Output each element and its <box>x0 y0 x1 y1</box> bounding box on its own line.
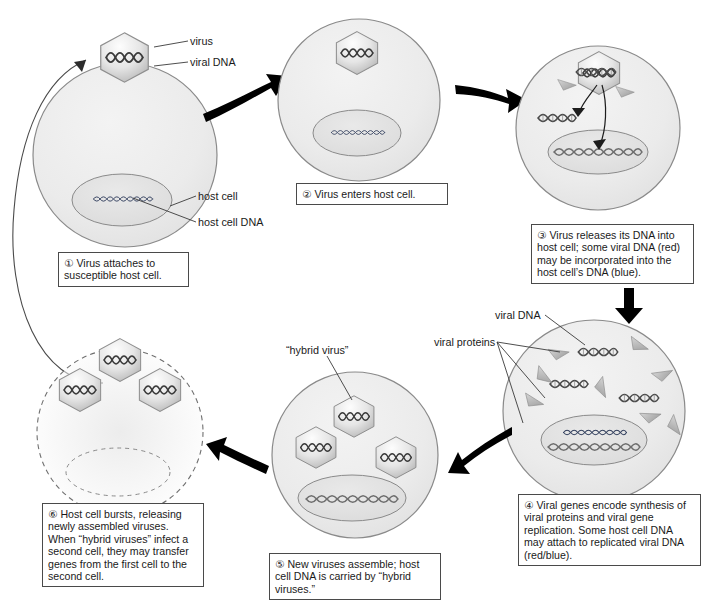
step-text-1: Virus attaches to susceptible host cell. <box>64 257 162 281</box>
arrow-step5-to-step6 <box>206 437 269 474</box>
caption-step-1: ① Virus attaches to susceptible host cel… <box>58 252 189 287</box>
nucleus-ellipse-icon <box>541 415 647 465</box>
arrow-step2-to-step3 <box>455 85 527 113</box>
caption-step-5: ⑤ New viruses assemble; host cell DNA is… <box>269 553 441 600</box>
step-number-1: ① <box>64 257 74 269</box>
label-host-cell-dna: host cell DNA <box>198 216 263 228</box>
label-hybrid-virus: “hybrid virus” <box>286 344 348 356</box>
caption-step-6: ⑥ Host cell bursts, releasing newly asse… <box>42 503 204 587</box>
arrow-step3-to-step4 <box>615 288 643 324</box>
step-3-cell-group <box>516 46 680 210</box>
step-text-4: Viral genes encode synthesis of viral pr… <box>524 499 686 561</box>
caption-step-3: ③ Virus releases its DNA into host cell;… <box>531 224 694 284</box>
label-host-cell: host cell <box>198 190 238 202</box>
step-text-6: Host cell bursts, releasing newly assemb… <box>48 508 189 582</box>
arrow-step4-to-step5 <box>448 427 512 474</box>
label-viral-proteins: viral proteins <box>434 336 495 348</box>
arrow-step1-to-step2 <box>203 74 288 122</box>
step-number-2: ② <box>302 188 312 200</box>
nucleus-ellipse-icon <box>72 174 172 226</box>
label-viral-dna: viral DNA <box>190 56 236 68</box>
step-6-cell-group <box>37 339 203 515</box>
label-viral-dna-2: viral DNA <box>495 309 541 321</box>
label-virus: virus <box>190 35 213 47</box>
step-text-3: Virus releases its DNA into host cell; s… <box>537 229 680 278</box>
step-5-cell-group <box>272 372 438 538</box>
step-2-cell-group <box>278 19 440 181</box>
step-number-3: ③ <box>537 229 547 241</box>
step-number-4: ④ <box>524 499 534 511</box>
step-text-2: Virus enters host cell. <box>314 188 415 200</box>
step-number-5: ⑤ <box>275 558 285 570</box>
nucleus-ellipse-icon <box>313 110 401 156</box>
step-text-5: New viruses assemble; host cell DNA is c… <box>275 558 419 595</box>
caption-step-2: ② Virus enters host cell. <box>296 183 448 205</box>
step-number-6: ⑥ <box>48 508 58 520</box>
diagram-canvas: virus viral DNA host cell host cell DNA … <box>0 0 707 615</box>
caption-step-4: ④ Viral genes encode synthesis of viral … <box>518 494 701 566</box>
